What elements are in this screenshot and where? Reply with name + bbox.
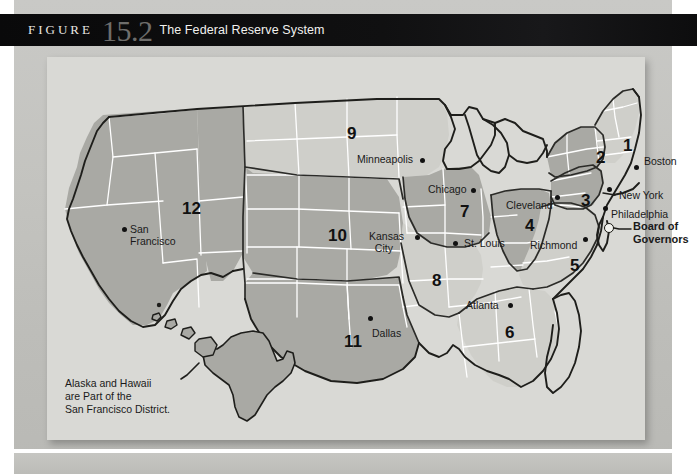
city-dot-san-francisco [122, 227, 127, 232]
district-number-11: 11 [344, 332, 362, 352]
city-label-minneapolis: Minneapolis [357, 154, 413, 166]
city-label-richmond: Richmond [530, 240, 577, 252]
alaska-aleutians [181, 363, 199, 379]
district-number-6: 6 [505, 323, 514, 343]
map-panel: 1 2 3 4 5 6 7 8 9 10 11 12 Boston New Yo… [47, 57, 645, 440]
city-label-new-york: New York [619, 190, 663, 202]
district-number-5: 5 [570, 256, 579, 276]
figure-title: The Federal Reserve System [159, 23, 324, 37]
district-number-8: 8 [432, 271, 441, 291]
hawaii-inset [152, 313, 217, 357]
city-dot-minneapolis [420, 158, 425, 163]
city-dot-dallas [368, 316, 373, 321]
hawaii-dot-icon [157, 303, 161, 307]
figure-header-bar: FIGURE 15.2 The Federal Reserve System [0, 14, 697, 46]
city-label-cleveland: Cleveland [506, 200, 553, 212]
figure-label: FIGURE [28, 22, 93, 38]
city-label-san-francisco: San Francisco [130, 224, 176, 247]
left-margin [0, 0, 14, 474]
city-label-dallas: Dallas [372, 328, 401, 340]
district-number-12: 12 [182, 199, 201, 219]
city-dot-cleveland [555, 195, 560, 200]
figure-header-content: FIGURE 15.2 The Federal Reserve System [28, 14, 325, 46]
city-dot-chicago [471, 188, 476, 193]
district-number-2: 2 [596, 148, 605, 168]
district-number-7: 7 [460, 202, 469, 222]
city-dot-richmond [583, 237, 588, 242]
city-dot-boston [634, 165, 639, 170]
district-number-9: 9 [347, 124, 356, 144]
district-number-10: 10 [328, 226, 347, 246]
district-number-1: 1 [623, 136, 632, 156]
figure-page: FIGURE 15.2 The Federal Reserve System [0, 0, 697, 474]
city-label-chicago: Chicago [428, 184, 467, 196]
city-dot-kansas-city [415, 235, 420, 240]
district-number-4: 4 [525, 216, 534, 236]
city-label-philadelphia: Philadelphia [611, 209, 668, 221]
city-dot-st-louis [453, 241, 458, 246]
city-label-st-louis: St. Louis [464, 238, 505, 250]
figure-number: 15.2 [102, 16, 153, 46]
city-dot-atlanta [508, 303, 513, 308]
board-of-governors-label: Board of Governors [633, 220, 689, 246]
district-10-area [243, 167, 403, 281]
city-dot-philadelphia [603, 206, 608, 211]
bottom-band [14, 453, 672, 474]
city-label-boston: Boston [644, 156, 677, 168]
city-label-kansas-city: Kansas City [369, 231, 404, 254]
alaska-hawaii-note: Alaska and Hawaii are Part of the San Fr… [65, 377, 170, 416]
board-of-governors-marker-icon [604, 223, 614, 233]
city-label-atlanta: Atlanta [466, 300, 499, 312]
district-number-3: 3 [581, 191, 590, 211]
city-dot-new-york [607, 187, 612, 192]
